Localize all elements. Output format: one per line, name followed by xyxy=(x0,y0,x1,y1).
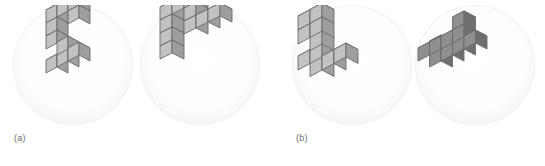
shape-panel-b-left[interactable] xyxy=(292,5,412,125)
caption-b: (b) xyxy=(296,133,308,143)
shape-panel-a-left[interactable] xyxy=(13,5,133,125)
cube-figure xyxy=(140,5,260,125)
figure-canvas: (a)(b) xyxy=(0,0,545,166)
shape-panel-a-right[interactable] xyxy=(140,5,260,125)
caption-a: (a) xyxy=(14,133,26,143)
cube-figure xyxy=(292,5,412,125)
cube-figure xyxy=(415,5,535,125)
cube-figure xyxy=(13,5,133,125)
shape-panel-b-right[interactable] xyxy=(415,5,535,125)
